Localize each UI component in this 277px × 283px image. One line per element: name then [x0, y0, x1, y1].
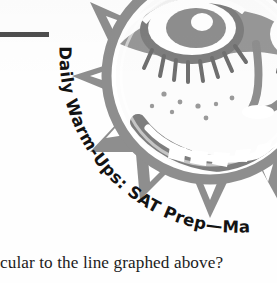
- paper-scan-tint: [0, 0, 277, 283]
- book-title-text: Daily Warm-Ups: SAT Prep—Math: [20, 1, 251, 237]
- sun-rays-group: [72, 0, 277, 218]
- horizontal-rule: [0, 32, 49, 37]
- book-title-curved: Daily Warm-Ups: SAT Prep—Math: [26, 16, 276, 256]
- cheek-speckles: [150, 91, 235, 120]
- page-canvas: Daily Warm-Ups: SAT Prep—Math cular to t…: [0, 0, 277, 283]
- book-title-textpath: Daily Warm-Ups: SAT Prep—Math: [20, 1, 251, 237]
- sun-face-woodcut-illustration: [60, 0, 277, 226]
- sun-mouth: [138, 122, 277, 167]
- sun-outer-ring: [108, 0, 277, 178]
- sun-face-group: [116, 0, 277, 222]
- sun-nose: [252, 44, 277, 110]
- sun-eye-left: [140, 0, 246, 82]
- sun-disc: [116, 0, 277, 170]
- body-text-line: cular to the line graphed above?: [0, 252, 277, 273]
- sun-eye-right: [270, 8, 277, 78]
